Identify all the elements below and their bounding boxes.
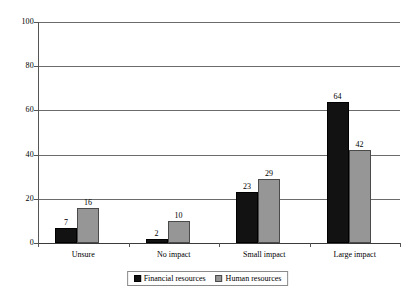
x-label-large-impact: Large impact: [310, 250, 401, 260]
bar-value-financial-unsure: 7: [64, 218, 68, 227]
bar-financial-small-impact: 23: [236, 192, 258, 243]
y-tick-label-80: 80: [6, 62, 34, 70]
bar-financial-large-impact: 64: [327, 102, 349, 243]
legend-entry-human-resources[interactable]: Human resources: [216, 274, 282, 283]
chart-legend: Financial resources Human resources: [127, 271, 289, 286]
y-tick-label-100: 100: [6, 18, 34, 26]
bar-human-large-impact: 42: [349, 150, 371, 243]
x-tickmark-0: [38, 243, 39, 247]
x-label-small-impact: Small impact: [219, 250, 310, 260]
legend-label-financial: Financial resources: [144, 274, 206, 283]
bar-value-human-large-impact: 42: [356, 140, 364, 149]
bars-layer: 7 16 2 10 23 29 64: [38, 22, 400, 243]
bar-chart: 100 80 60 40 20 0 7 16 2 10 23: [0, 0, 415, 307]
bar-human-small-impact: 29: [258, 179, 280, 243]
x-tickmark-1: [129, 243, 130, 247]
bar-group-no-impact: 2 10: [129, 22, 220, 243]
y-tick-label-60: 60: [6, 106, 34, 114]
legend-swatch-icon-human: [216, 275, 223, 282]
legend-label-human: Human resources: [226, 274, 282, 283]
x-label-no-impact: No impact: [129, 250, 220, 260]
bar-value-human-small-impact: 29: [265, 169, 273, 178]
bar-value-human-no-impact: 10: [175, 211, 183, 220]
x-tickmark-2: [219, 243, 220, 247]
legend-swatch-icon-financial: [134, 275, 141, 282]
bar-value-financial-small-impact: 23: [243, 182, 251, 191]
bar-value-financial-large-impact: 64: [334, 92, 342, 101]
bar-value-human-unsure: 16: [84, 198, 92, 207]
y-tick-label-20: 20: [6, 195, 34, 203]
bar-financial-no-impact: 2: [146, 239, 168, 243]
legend-entry-financial-resources[interactable]: Financial resources: [134, 274, 206, 283]
bar-financial-unsure: 7: [55, 228, 77, 243]
x-label-unsure: Unsure: [38, 250, 129, 260]
bar-group-large-impact: 64 42: [310, 22, 401, 243]
bar-value-financial-no-impact: 2: [155, 229, 159, 238]
x-tickmark-3: [310, 243, 311, 247]
bar-group-unsure: 7 16: [38, 22, 129, 243]
bar-human-unsure: 16: [77, 208, 99, 243]
bar-group-small-impact: 23 29: [219, 22, 310, 243]
y-tick-label-0: 0: [6, 239, 34, 247]
y-tick-label-40: 40: [6, 151, 34, 159]
x-tickmark-4: [400, 243, 401, 247]
bar-human-no-impact: 10: [168, 221, 190, 243]
